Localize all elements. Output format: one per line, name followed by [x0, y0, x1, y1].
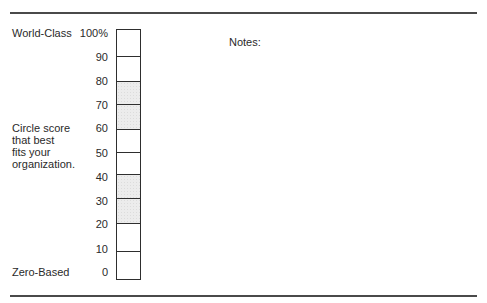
- instruction-label: Circle score that best fits your organiz…: [12, 122, 75, 170]
- score-cell-40-50[interactable]: [116, 152, 141, 175]
- tick-60: 60: [68, 122, 108, 134]
- tick-10: 10: [68, 243, 108, 255]
- score-cell-50-60[interactable]: [116, 129, 141, 153]
- zero-based-label: Zero-Based: [12, 266, 69, 278]
- tick-30: 30: [68, 195, 108, 207]
- tick-40: 40: [68, 171, 108, 183]
- score-cell-80-90[interactable]: [116, 56, 141, 82]
- bottom-divider: [10, 295, 477, 297]
- top-divider: [10, 12, 477, 14]
- score-cell-60-70[interactable]: [116, 104, 141, 130]
- notes-label: Notes:: [229, 36, 261, 48]
- tick-0: 0: [68, 266, 108, 278]
- score-cell-20-30[interactable]: [116, 198, 141, 224]
- score-cell-90-100[interactable]: [116, 29, 141, 57]
- tick-90: 90: [68, 51, 108, 63]
- score-cell-10-20[interactable]: [116, 223, 141, 252]
- world-class-label: World-Class: [12, 27, 72, 39]
- score-cell-70-80[interactable]: [116, 81, 141, 105]
- score-cell-30-40[interactable]: [116, 174, 141, 199]
- tick-50: 50: [68, 147, 108, 159]
- tick-80: 80: [68, 75, 108, 87]
- score-cell-0-10[interactable]: [116, 251, 141, 280]
- tick-70: 70: [68, 99, 108, 111]
- tick-20: 20: [68, 218, 108, 230]
- tick-100: 100%: [68, 27, 108, 39]
